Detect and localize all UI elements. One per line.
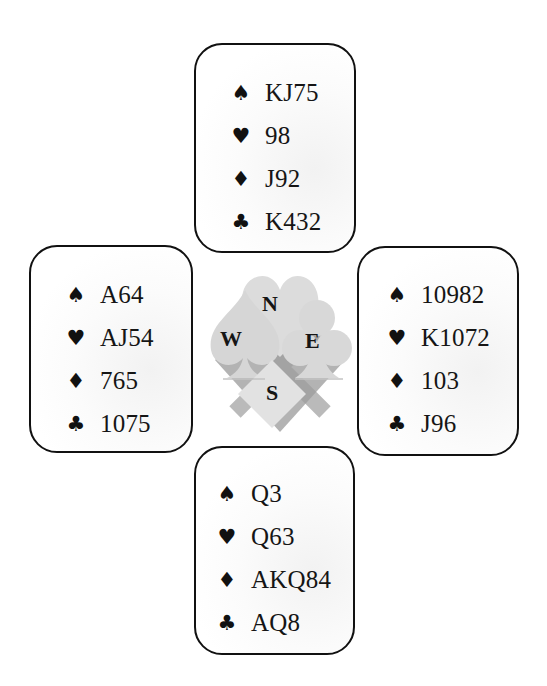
west-spades-cards: A64: [100, 280, 144, 310]
hand-west: ♠ A64 ♥ AJ54 ♦ 765 ♣ 1075: [29, 245, 193, 453]
spade-icon: ♠: [66, 280, 86, 310]
north-hearts-cards: 98: [265, 121, 290, 151]
south-diamonds-cards: AKQ84: [251, 565, 331, 595]
spade-icon: ♠: [387, 280, 407, 310]
north-spades-cards: KJ75: [265, 78, 319, 108]
club-icon: ♣: [66, 409, 86, 439]
east-spades-cards: 10982: [421, 280, 485, 310]
heart-icon: ♥: [66, 323, 86, 353]
compass-north-label: N: [262, 293, 278, 315]
west-diamonds-cards: 765: [100, 366, 138, 396]
south-spades-cards: Q3: [251, 479, 282, 509]
heart-icon: ♥: [387, 323, 407, 353]
west-hearts-cards: AJ54: [100, 323, 154, 353]
diamond-icon: ♦: [217, 565, 237, 595]
west-clubs-cards: 1075: [100, 409, 151, 439]
heart-icon: ♥: [217, 522, 237, 552]
heart-icon: ♥: [231, 121, 251, 151]
compass-south-label: S: [266, 382, 278, 404]
spade-icon: ♠: [217, 479, 237, 509]
east-clubs-cards: J96: [421, 409, 456, 439]
south-hearts-cards: Q63: [251, 522, 295, 552]
east-diamonds-cards: 103: [421, 366, 459, 396]
diamond-icon: ♦: [387, 366, 407, 396]
south-clubs-cards: AQ8: [251, 608, 300, 638]
north-diamonds-cards: J92: [265, 164, 300, 194]
hand-south: ♠ Q3 ♥ Q63 ♦ AKQ84 ♣ AQ8: [194, 446, 355, 655]
east-hearts-cards: K1072: [421, 323, 490, 353]
diamond-icon: ♦: [66, 366, 86, 396]
club-icon: ♣: [231, 207, 251, 237]
compass-rose: N W E S: [205, 262, 355, 440]
club-icon: ♣: [387, 409, 407, 439]
spade-icon: ♠: [231, 78, 251, 108]
north-clubs-cards: K432: [265, 207, 321, 237]
diamond-icon: ♦: [231, 164, 251, 194]
hand-east: ♠ 10982 ♥ K1072 ♦ 103 ♣ J96: [357, 246, 519, 456]
compass-graphic: [205, 262, 355, 440]
hand-north: ♠ KJ75 ♥ 98 ♦ J92 ♣ K432: [194, 43, 356, 253]
club-icon: ♣: [217, 608, 237, 638]
compass-west-label: W: [220, 328, 242, 350]
compass-east-label: E: [305, 330, 320, 352]
